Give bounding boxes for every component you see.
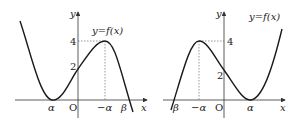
right-graph: y y=f(x) 4 2 β −α O α x	[163, 8, 286, 118]
x-axis-label: x	[141, 102, 147, 113]
y-axis-label: y	[215, 8, 222, 19]
graphs-canvas: y y=f(x) 4 2 α O −α β x y y=f(x) 4 2 β −…	[0, 0, 295, 120]
y-tick-2: 2	[70, 61, 76, 72]
x-axis-label: x	[280, 102, 286, 113]
curve-label: y=f(x)	[248, 11, 280, 22]
y-tick-4: 4	[227, 36, 233, 47]
x-tick-neg-alpha: −α	[97, 102, 112, 113]
left-graph: y y=f(x) 4 2 α O −α β x	[15, 8, 147, 118]
x-tick-beta: β	[120, 102, 127, 113]
x-tick-beta: β	[172, 102, 179, 113]
origin-label: O	[69, 102, 77, 113]
x-tick-alpha: α	[247, 102, 254, 113]
y-tick-2: 2	[217, 70, 223, 81]
y-axis-label: y	[69, 8, 76, 19]
x-tick-alpha: α	[48, 102, 55, 113]
curve-label: y=f(x)	[91, 25, 123, 36]
origin-label: O	[215, 102, 223, 113]
x-tick-neg-alpha: −α	[191, 102, 206, 113]
y-tick-4: 4	[70, 36, 76, 47]
